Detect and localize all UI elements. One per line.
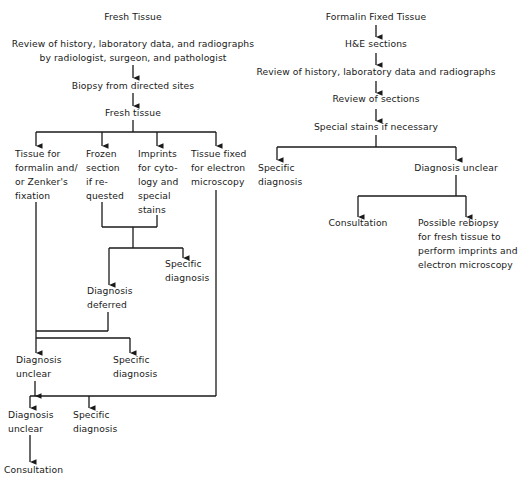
- specific-diagnosis-node-3: Specific diagnosis: [73, 408, 117, 436]
- pathology-flowchart: Fresh Tissue Review of history, laborato…: [0, 0, 530, 483]
- frozen-section-node: Frozen section if re- quested: [86, 147, 124, 203]
- diagnosis-unclear-node-right: Diagnosis unclear: [414, 161, 498, 175]
- specific-diagnosis-node-1: Specific diagnosis: [165, 257, 209, 285]
- specific-diagnosis-node-2: Specific diagnosis: [113, 353, 157, 381]
- imprints-node: Imprints for cyto- logy and special stai…: [138, 147, 178, 217]
- left-review-node: Review of history, laboratory data, and …: [12, 37, 254, 65]
- diagnosis-deferred-node: Diagnosis deferred: [87, 284, 133, 312]
- right-review-node: Review of history, laboratory data and r…: [256, 65, 495, 79]
- fresh-tissue-node: Fresh tissue: [105, 106, 161, 120]
- rebiopsy-node: Possible rebiopsy for fresh tissue to pe…: [418, 216, 518, 272]
- consultation-node-left: Consultation: [4, 463, 63, 477]
- he-sections-node: H&E sections: [345, 37, 407, 51]
- formalin-fixed-title: Formalin Fixed Tissue: [326, 10, 426, 24]
- diagnosis-unclear-node-2: Diagnosis unclear: [8, 408, 54, 436]
- biopsy-node: Biopsy from directed sites: [72, 79, 194, 93]
- specific-diagnosis-node-right: Specific diagnosis: [258, 161, 302, 189]
- special-stains-node: Special stains if necessary: [314, 120, 438, 134]
- review-sections-node: Review of sections: [332, 92, 419, 106]
- electron-microscopy-node: Tissue fixed for electron microscopy: [191, 147, 246, 189]
- diagnosis-unclear-node-1: Diagnosis unclear: [16, 353, 62, 381]
- consultation-node-right: Consultation: [328, 216, 387, 230]
- formalin-fixation-node: Tissue for formalin and/ or Zenker's fix…: [15, 147, 78, 203]
- fresh-tissue-title: Fresh Tissue: [104, 10, 162, 24]
